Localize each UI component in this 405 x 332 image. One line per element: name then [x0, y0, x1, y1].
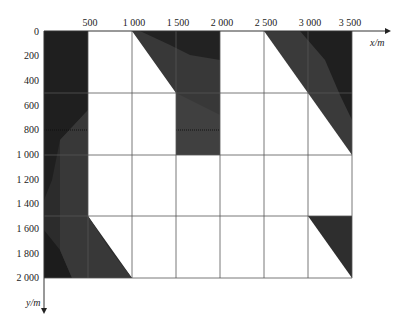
- y-tick: 2 000: [17, 272, 40, 283]
- y-tick: 1 800: [17, 248, 40, 259]
- x-tick: 2 500: [255, 17, 278, 28]
- x-tick: 1 000: [123, 17, 146, 28]
- y-tick: 800: [24, 124, 39, 135]
- y-tick: 600: [24, 100, 39, 111]
- diagram-canvas: x/m y/m 500 1 000 1 500 2 000 2 500 3 00…: [0, 0, 405, 332]
- x-tick: 1 500: [167, 17, 190, 28]
- x-tick: 3 000: [299, 17, 322, 28]
- y-axis-label: y/m: [25, 297, 40, 308]
- y-tick: 400: [24, 75, 39, 86]
- x-tick: 3 500: [339, 17, 362, 28]
- y-tick: 1 400: [17, 198, 40, 209]
- x-axis-label: x/m: [369, 37, 384, 48]
- x-tick: 2 000: [211, 17, 234, 28]
- y-tick: 1 000: [17, 149, 40, 160]
- y-tick: 1 200: [17, 174, 40, 185]
- y-tick: 1 600: [17, 223, 40, 234]
- x-tick-labels: 500 1 000 1 500 2 000 2 500 3 000 3 500: [83, 17, 362, 28]
- y-tick: 200: [24, 50, 39, 61]
- x-tick: 500: [83, 17, 98, 28]
- y-tick: 0: [34, 26, 39, 37]
